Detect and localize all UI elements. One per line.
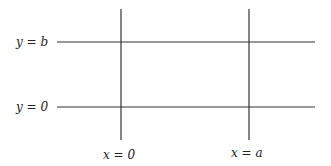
label-x-a: x = a [231,146,263,160]
label-x-0: x = 0 [103,148,135,162]
label-x-0-text: x = 0 [103,148,135,162]
label-x-a-text: x = a [231,146,263,160]
label-y-b-text: y = b [16,35,48,49]
label-y-0-text: y = 0 [16,100,48,114]
grid-diagram [0,0,331,166]
label-y-b: y = b [16,35,48,49]
label-y-0: y = 0 [16,100,48,114]
